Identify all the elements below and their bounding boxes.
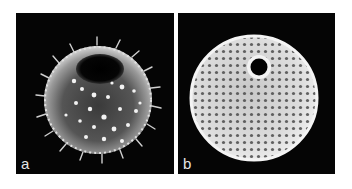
- panel-label-a: a: [21, 156, 29, 171]
- micrograph-panel-b: b: [178, 13, 335, 174]
- spiny-pollen-grain-image: [16, 13, 174, 174]
- panel-label-b: b: [183, 156, 191, 171]
- reticulate-pollen-grain-image: [178, 13, 335, 174]
- micrograph-panel-a: a: [16, 13, 174, 174]
